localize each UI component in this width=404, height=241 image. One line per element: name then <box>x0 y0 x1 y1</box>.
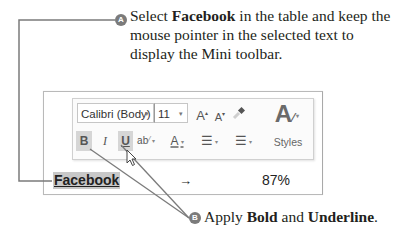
font-color-button[interactable]: A▾ <box>165 131 189 151</box>
callout-a-badge: A <box>115 14 127 26</box>
bullets-icon: ☰ <box>201 133 213 148</box>
callout-b-bold-2: Underline <box>308 208 374 225</box>
trend-arrow-icon: → <box>179 172 192 189</box>
font-name-dropdown[interactable]: Calibri (Body) ▾ <box>77 103 154 123</box>
callout-b-middle: and <box>278 208 308 225</box>
callout-a-text: Select Facebook in the table and keep th… <box>130 6 400 63</box>
numbering-icon: ☰ <box>235 133 247 148</box>
callout-b-suffix: . <box>374 208 378 225</box>
format-painter-button[interactable] <box>231 103 247 123</box>
font-name-value: Calibri (Body) <box>81 108 151 120</box>
styles-gallery-button[interactable]: A⁄▾ <box>269 99 305 129</box>
underline-button[interactable]: U <box>118 131 133 151</box>
font-color-icon: A <box>170 134 178 148</box>
numbering-button[interactable]: ☰▾ <box>229 131 257 151</box>
callout-b-badge: B <box>189 212 201 224</box>
callout-b-text: Apply Bold and Underline. <box>204 207 378 226</box>
font-size-value: 11 <box>158 108 170 120</box>
styles-label[interactable]: Styles <box>269 132 307 152</box>
table-cell-percent: 87% <box>262 172 290 189</box>
styles-icon: A <box>275 100 292 127</box>
chevron-down-icon: ▾ <box>145 104 149 124</box>
grow-font-button[interactable]: A▴ <box>195 103 209 123</box>
highlight-icon: ab <box>137 135 148 146</box>
italic-button[interactable]: I <box>98 131 112 151</box>
callout-a-prefix: Select <box>130 7 172 24</box>
callout-b-bold-1: Bold <box>247 208 278 225</box>
format-painter-icon <box>232 106 246 120</box>
grow-font-icon: A <box>196 108 205 123</box>
mini-toolbar: Calibri (Body) ▾ 11 ▾ A▴ A▾ A⁄▾ B I U ab… <box>72 98 314 160</box>
shrink-font-button[interactable]: A▾ <box>213 104 227 124</box>
table-cell-name-selected[interactable]: Facebook <box>53 172 120 189</box>
callout-a-bold: Facebook <box>172 7 236 24</box>
highlight-button[interactable]: ab⁄▾ <box>135 131 157 151</box>
bold-button[interactable]: B <box>76 131 92 151</box>
mouse-pointer-icon <box>126 149 138 167</box>
callout-b-prefix: Apply <box>204 208 247 225</box>
bullets-button[interactable]: ☰▾ <box>195 131 223 151</box>
chevron-down-icon: ▾ <box>179 104 183 124</box>
font-size-dropdown[interactable]: 11 ▾ <box>154 103 188 123</box>
